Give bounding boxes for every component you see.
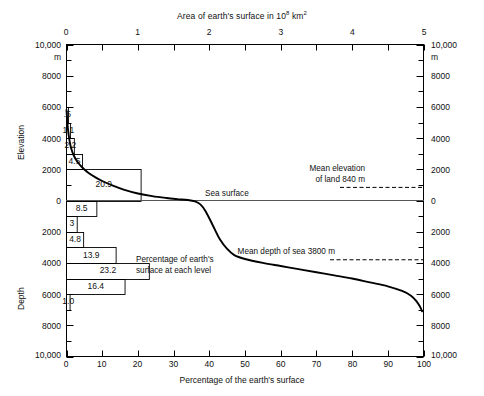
hypsographic-curve-figure: Area of earth's surface in 108 km2 Perce… (0, 0, 484, 396)
legend-note-line2: surface at each level (136, 266, 214, 277)
percentage-bar (67, 170, 142, 202)
mean-elevation-annotation: Mean elevation of land 840 m (250, 164, 365, 185)
hypsographic-curve (67, 110, 423, 311)
mean-depth-annotation: Mean depth of sea 3800 m (200, 247, 335, 258)
sea-surface-label: Sea surface (205, 189, 249, 200)
percentage-bar (67, 248, 117, 264)
percentage-bar (67, 217, 78, 233)
legend-note: Percentage of earth's surface at each le… (136, 255, 214, 276)
percentage-bar (67, 233, 84, 248)
percentage-bars (67, 108, 150, 311)
mean-elevation-line2: of land 840 m (250, 175, 365, 186)
legend-note-line1: Percentage of earth's (136, 255, 214, 266)
percentage-bar (67, 202, 97, 217)
percentage-bar (67, 295, 71, 311)
mean-elevation-line1: Mean elevation (250, 164, 365, 175)
percentage-bar (67, 280, 126, 295)
